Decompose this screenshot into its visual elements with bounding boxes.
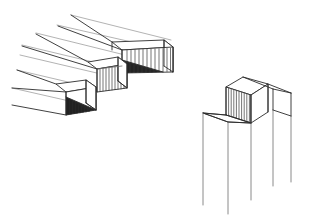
rear-shelf-edge bbox=[273, 110, 291, 116]
drawing-canvas bbox=[0, 0, 309, 220]
post-legs bbox=[203, 110, 291, 214]
vertical-post-assembly bbox=[203, 77, 291, 214]
joinery-line-drawing bbox=[0, 0, 309, 220]
left-assembly bbox=[12, 15, 173, 115]
